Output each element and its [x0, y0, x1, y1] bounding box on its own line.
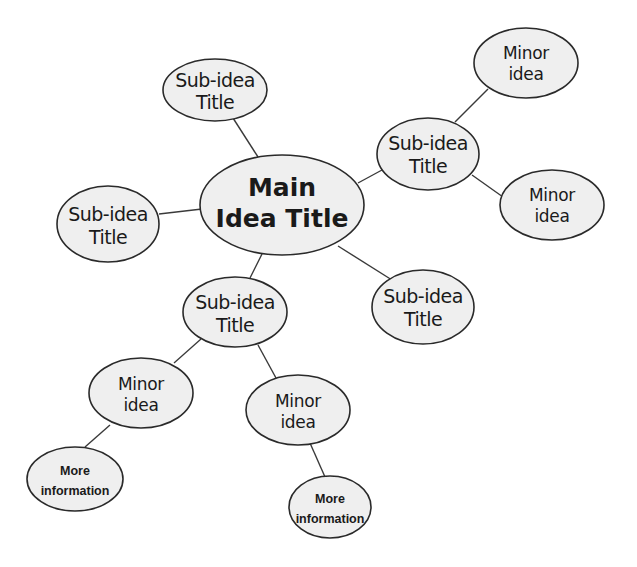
minor-idea-mid-line1: Minor [275, 391, 321, 411]
edge-sub-right-minor-top [455, 89, 488, 122]
minor-idea-top-right-line1: Minor [503, 43, 549, 63]
edge-main-sub-right [358, 170, 382, 183]
edge-sub-bottom-minor-mid [258, 345, 276, 378]
minor-idea-left-line1: Minor [118, 374, 164, 394]
sub-idea-left-node[interactable]: Sub-idea Title [57, 186, 159, 262]
more-info-left-line1: More [60, 464, 90, 478]
sub-idea-bottom-right-node[interactable]: Sub-idea Title [372, 270, 474, 344]
sub-idea-left-line1: Sub-idea [68, 203, 148, 225]
sub-idea-bottom-line1: Sub-idea [195, 291, 275, 313]
sub-idea-bottom-right-line1: Sub-idea [383, 285, 463, 307]
sub-idea-right-line2: Title [408, 155, 447, 177]
more-info-right-line2: information [296, 512, 365, 526]
edge-sub-right-minor-right [472, 175, 503, 197]
sub-idea-top-line2: Title [195, 91, 234, 113]
minor-idea-right-node[interactable]: Minor idea [500, 170, 604, 240]
edge-minor-mid-info-right [310, 443, 325, 477]
minor-idea-left-line2: idea [123, 395, 158, 415]
mind-map-diagram: Main Idea Title Sub-idea Title Sub-idea … [0, 0, 637, 567]
minor-idea-mid-line2: idea [280, 412, 315, 432]
main-idea-line1: Main [248, 173, 316, 202]
minor-idea-right-line2: idea [534, 206, 569, 226]
main-idea-line2: Idea Title [216, 204, 349, 233]
sub-idea-right-line1: Sub-idea [388, 132, 468, 154]
minor-idea-right-line1: Minor [529, 185, 575, 205]
more-info-right-node[interactable]: More information [289, 476, 371, 538]
sub-idea-left-line2: Title [88, 226, 127, 248]
minor-idea-left-node[interactable]: Minor idea [89, 358, 193, 428]
sub-idea-top-node[interactable]: Sub-idea Title [163, 59, 267, 121]
edge-main-sub-left [159, 209, 202, 214]
more-info-left-node[interactable]: More information [27, 447, 123, 511]
sub-idea-top-line1: Sub-idea [175, 69, 255, 91]
minor-idea-top-right-node[interactable]: Minor idea [474, 28, 578, 98]
edge-sub-bottom-minor-left [174, 339, 201, 363]
sub-idea-bottom-line2: Title [215, 314, 254, 336]
sub-idea-right-node[interactable]: Sub-idea Title [377, 118, 479, 190]
main-idea-node[interactable]: Main Idea Title [200, 155, 364, 255]
more-info-left-line2: information [41, 484, 110, 498]
minor-idea-top-right-line2: idea [508, 64, 543, 84]
edge-minor-left-info-left [85, 425, 110, 447]
edge-main-sub-bottom-right [338, 246, 392, 280]
edge-main-sub-top [233, 118, 258, 157]
minor-idea-mid-node[interactable]: Minor idea [246, 375, 350, 445]
sub-idea-bottom-node[interactable]: Sub-idea Title [183, 277, 287, 347]
edge-main-sub-bottom [250, 254, 262, 278]
sub-idea-bottom-right-line2: Title [403, 308, 442, 330]
more-info-right-line1: More [315, 492, 345, 506]
